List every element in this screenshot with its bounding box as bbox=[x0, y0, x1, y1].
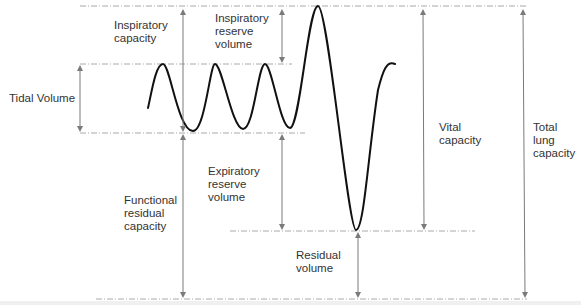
label-vital-capacity: Vital capacity bbox=[439, 121, 481, 147]
label-inspiratory-capacity: Inspiratory capacity bbox=[114, 19, 168, 45]
label-tidal-volume: Tidal Volume bbox=[9, 92, 75, 105]
label-expiratory-reserve-volume: Expiratory reserve volume bbox=[208, 165, 260, 204]
arrow-total-lung-capacity bbox=[523, 12, 525, 295]
label-total-lung-capacity: Total lung capacity bbox=[533, 121, 575, 160]
bottom-edge bbox=[0, 301, 581, 305]
spirogram-trace bbox=[148, 6, 395, 230]
lung-volumes-diagram: Tidal Volume Inspiratory capacity Inspir… bbox=[0, 0, 581, 305]
arrow-vital-capacity bbox=[423, 12, 424, 227]
label-residual-volume: Residual volume bbox=[296, 249, 341, 275]
label-functional-residual-capacity: Functional residual capacity bbox=[124, 194, 177, 233]
label-inspiratory-reserve-volume: Inspiratory reserve volume bbox=[215, 12, 269, 51]
diagram-canvas bbox=[0, 0, 581, 305]
